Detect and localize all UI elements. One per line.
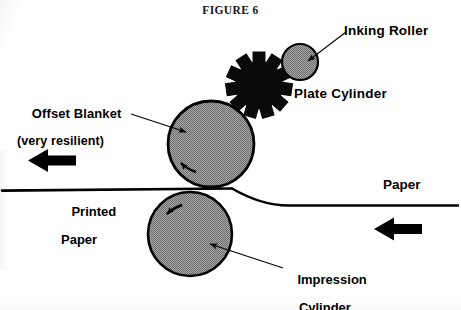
figure-page: FIGURE 6 [0,0,461,310]
paper-web-incoming [232,189,458,206]
inking-roller [282,44,318,80]
offset-blanket-cylinder [168,101,254,187]
paper-feed-direction-arrow [374,218,422,241]
label-impression-cylinder-line2: Cylinder [283,301,367,310]
label-paper: Paper [383,178,421,193]
label-printed-paper-line2: Paper [61,233,116,247]
label-printed-paper-line1: Printed [71,204,116,219]
label-plate-cylinder: Plate Cylinder [294,87,387,102]
label-offset-blanket-line1: Offset Blanket [32,106,122,121]
label-offset-blanket-line2: (very resilient) [17,135,121,149]
paper-web-printed [2,188,232,190]
label-impression-cylinder-line1: Impression [297,272,366,287]
leader-line-inking-roller [308,32,346,61]
label-offset-blanket: Offset Blanket (very resilient) [17,93,121,177]
impression-cylinder [148,192,232,276]
label-inking-roller: Inking Roller [344,24,428,39]
label-impression-cylinder: Impression Cylinder [283,259,367,310]
label-printed-paper: Printed Paper [57,191,116,275]
